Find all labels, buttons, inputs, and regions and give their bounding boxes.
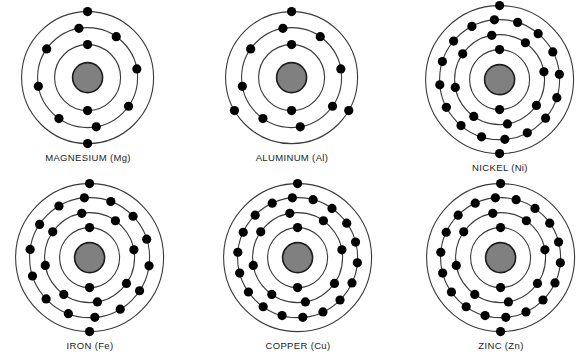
electron: [111, 217, 120, 226]
nucleus: [485, 65, 515, 95]
electron: [319, 308, 328, 317]
electron: [521, 39, 530, 48]
electron: [230, 106, 239, 115]
electron: [42, 295, 51, 304]
electron: [259, 114, 268, 123]
electron: [268, 290, 277, 299]
electron: [26, 245, 35, 254]
atom-label-iron: IRON (Fe): [67, 340, 114, 351]
electron: [490, 16, 499, 25]
electron: [299, 313, 308, 322]
nucleus: [277, 63, 307, 93]
atom-shell-model-iron: [9, 177, 170, 338]
atom-shell-model-aluminum: [219, 5, 364, 150]
electron: [316, 32, 325, 41]
electron: [343, 219, 352, 228]
electron: [353, 259, 362, 268]
electron: [328, 102, 337, 111]
electron: [495, 149, 504, 158]
electron: [541, 114, 550, 123]
electron: [496, 283, 505, 292]
electron: [337, 65, 346, 74]
electron: [78, 209, 87, 218]
electron: [246, 45, 255, 54]
atom-diagram-nickel: NICKEL (Ni): [419, 0, 580, 173]
atom-diagram-magnesium: MAGNESIUM (Mg): [15, 5, 160, 162]
electron: [130, 246, 139, 255]
nucleus: [73, 63, 103, 93]
electron: [319, 217, 328, 226]
electron: [41, 261, 50, 270]
electron: [481, 311, 490, 320]
electron: [438, 57, 447, 66]
electron: [122, 279, 131, 288]
electron: [436, 81, 445, 90]
electron: [145, 262, 154, 271]
atom-shell-model-copper: [217, 177, 378, 338]
electron: [457, 121, 466, 130]
electron: [501, 135, 510, 144]
electron: [454, 211, 463, 220]
electron: [293, 179, 302, 188]
electron: [533, 279, 542, 288]
atom-diagram-zinc: ZINC (Zn): [420, 177, 581, 350]
atom-label-aluminum: ALUMINUM (Al): [256, 152, 329, 163]
electron: [296, 123, 305, 132]
electron: [462, 303, 471, 312]
electron: [556, 259, 565, 268]
electron: [442, 228, 451, 237]
electron: [512, 195, 521, 204]
electron: [259, 303, 268, 312]
electron: [142, 235, 151, 244]
electron: [449, 37, 458, 46]
electron: [279, 24, 288, 33]
electron: [534, 29, 543, 38]
electron: [80, 194, 89, 203]
electron: [83, 139, 92, 148]
electron: [268, 199, 277, 208]
electron: [83, 40, 92, 49]
atom-label-nickel: NICKEL (Ni): [472, 162, 528, 173]
atom-diagram-grid: MAGNESIUM (Mg)ALUMINUM (Al)NICKEL (Ni)IR…: [0, 0, 587, 358]
electron: [477, 133, 486, 142]
electron: [133, 65, 142, 74]
electron: [249, 261, 258, 270]
electron: [541, 246, 550, 255]
electron: [293, 223, 302, 232]
electron: [278, 311, 287, 320]
electron: [348, 279, 357, 288]
electron: [49, 228, 58, 237]
electron: [92, 123, 101, 132]
electron: [488, 31, 497, 40]
electron: [495, 105, 504, 114]
electron: [301, 298, 310, 307]
electron: [287, 106, 296, 115]
electron: [124, 102, 133, 111]
electron: [107, 197, 116, 206]
electron: [504, 298, 513, 307]
electron: [55, 202, 64, 211]
electron: [522, 217, 531, 226]
electron: [549, 48, 558, 57]
electron: [257, 228, 266, 237]
electron: [85, 327, 94, 336]
electron: [555, 70, 564, 79]
electron: [468, 22, 477, 31]
electron: [351, 238, 360, 247]
electron: [532, 101, 541, 110]
electron: [251, 211, 260, 220]
electron: [287, 7, 296, 16]
electron: [64, 310, 73, 319]
atom-shell-model-zinc: [420, 177, 581, 338]
electron: [28, 272, 37, 281]
electron: [234, 248, 243, 257]
electron: [459, 50, 468, 59]
electron: [239, 228, 248, 237]
nucleus: [283, 243, 313, 273]
electron: [116, 305, 125, 314]
atom-diagram-iron: IRON (Fe): [9, 177, 170, 350]
electron: [491, 194, 500, 203]
electron: [553, 93, 562, 102]
electron: [540, 68, 549, 77]
electron: [42, 45, 51, 54]
